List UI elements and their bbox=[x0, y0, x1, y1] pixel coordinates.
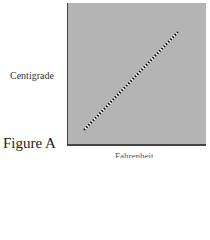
y-axis-label: Centigrade bbox=[10, 70, 54, 81]
figure-caption: Figure A bbox=[3, 135, 56, 152]
x-axis-label: Fahrenheit bbox=[115, 151, 154, 158]
